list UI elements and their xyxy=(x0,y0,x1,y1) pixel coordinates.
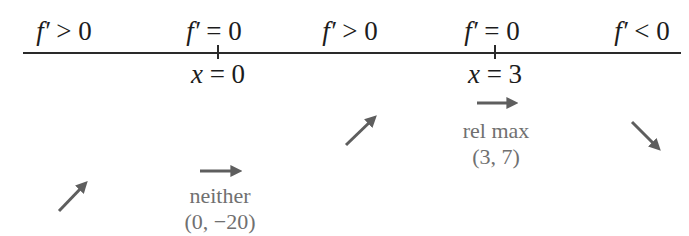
point-coordinates: (0, −20) xyxy=(184,209,255,235)
point-coordinates: (3, 7) xyxy=(463,144,530,170)
classification-label: rel max xyxy=(463,118,530,144)
classification-annotation-1: neither (0, −20) xyxy=(184,183,255,235)
sign-chart-diagram: f′ > 0 f′ = 0 f′ > 0 f′ = 0 f′ < 0 x = 0… xyxy=(0,0,689,236)
arrow-up-right-icon xyxy=(346,119,373,145)
behavior-arrows xyxy=(0,0,689,236)
arrow-up-right-icon xyxy=(59,185,84,211)
classification-annotation-2: rel max (3, 7) xyxy=(463,118,530,170)
classification-label: neither xyxy=(184,183,255,209)
arrow-down-right-icon xyxy=(632,122,657,147)
